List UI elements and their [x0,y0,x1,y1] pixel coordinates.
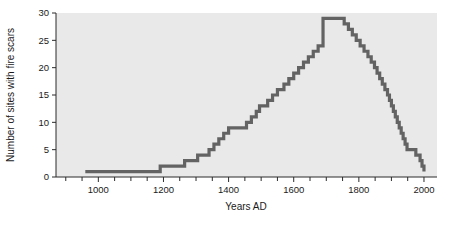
fire-scar-step-chart: 051015202530 100012001400160018002000 Ye… [0,0,460,226]
x-axis-title: Years AD [225,201,266,212]
x-tick-label: 1200 [153,184,174,195]
y-tick-label: 20 [38,62,49,73]
y-tick-label: 15 [38,89,49,100]
y-axis-title: Number of sites with fire scars [5,28,16,162]
x-tick-label: 1400 [218,184,239,195]
x-tick-label: 1000 [88,184,109,195]
x-tick-label: 1600 [283,184,304,195]
chart-figure: 051015202530 100012001400160018002000 Ye… [0,0,460,226]
y-tick-label: 30 [38,7,49,18]
x-axis-minor-ticks [66,177,408,181]
y-tick-label: 5 [44,144,49,155]
plot-background [56,13,437,177]
x-tick-label: 2000 [413,184,434,195]
x-tick-label: 1800 [348,184,369,195]
y-axis-ticks: 051015202530 [38,7,56,182]
y-tick-label: 10 [38,117,49,128]
y-tick-label: 25 [38,35,49,46]
y-tick-label: 0 [44,171,49,182]
